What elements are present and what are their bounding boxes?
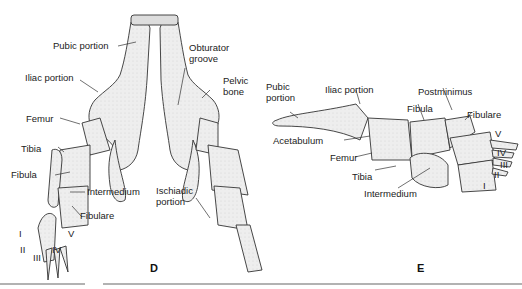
label-intermedium: Intermedium bbox=[87, 187, 140, 197]
label-digit-II: II bbox=[20, 245, 25, 255]
label-digit-I: I bbox=[19, 229, 22, 239]
label-femur-e: Femur bbox=[330, 153, 357, 163]
label-intermedium-e: Intermedium bbox=[364, 189, 417, 199]
label-pubic-portion-e: Pubic bbox=[266, 82, 290, 92]
label-digit-III-e: III bbox=[500, 160, 508, 170]
label-femur: Femur bbox=[26, 114, 53, 124]
label-digit-III: III bbox=[33, 253, 41, 263]
label-fibulare-e: Fibulare bbox=[467, 110, 501, 120]
label-digit-I-e: I bbox=[483, 181, 486, 191]
label-iliac-portion: Iliac portion bbox=[25, 73, 74, 83]
label-pelvic-bone-2: bone bbox=[223, 87, 244, 97]
label-obturator-groove: Obturator bbox=[189, 43, 229, 53]
label-digit-V-e: V bbox=[495, 129, 501, 139]
label-digit-II-e: II bbox=[494, 170, 499, 180]
label-pelvic-bone: Pelvic bbox=[223, 76, 248, 86]
label-fibula: Fibula bbox=[11, 170, 37, 180]
label-ischiadic-portion: Ischiadic bbox=[156, 186, 193, 196]
label-ischiadic-portion-2: portion bbox=[156, 197, 185, 207]
label-fibula-e: Fibula bbox=[407, 104, 433, 114]
label-tibia-e: Tibia bbox=[352, 172, 372, 182]
label-digit-IV-e: IV bbox=[497, 148, 506, 158]
label-iliac-portion-e: Iliac portion bbox=[325, 85, 374, 95]
label-postminimus: Postminimus bbox=[418, 87, 472, 97]
label-digit-V: V bbox=[68, 229, 74, 239]
label-acetabulum: Acetabulum bbox=[273, 136, 323, 146]
label-obturator-groove-2: groove bbox=[189, 54, 218, 64]
label-tibia: Tibia bbox=[21, 144, 41, 154]
label-pubic-portion: Pubic portion bbox=[53, 41, 108, 51]
panel-label-E: E bbox=[417, 262, 424, 274]
panel-label-D: D bbox=[150, 262, 158, 274]
label-digit-IV: IV bbox=[52, 245, 61, 255]
label-fibulare: Fibulare bbox=[80, 211, 114, 221]
label-pubic-portion-e-2: portion bbox=[266, 93, 295, 103]
